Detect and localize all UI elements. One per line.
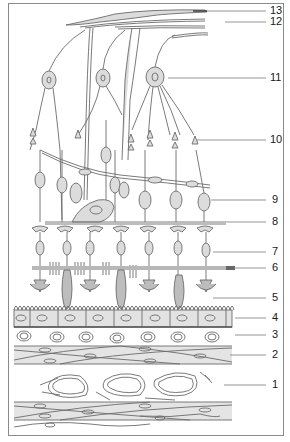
- layer-label-2: 2: [272, 349, 278, 360]
- choroid-stroma-lower: [14, 402, 232, 427]
- ganglion-cells: [42, 67, 164, 89]
- choroid-stroma: [14, 346, 232, 364]
- nerve-fiber-layer: [66, 10, 208, 38]
- layer-label-9: 9: [272, 194, 278, 205]
- external-limiting-membrane: [32, 266, 235, 270]
- inner-plexiform-synapses: [30, 128, 198, 150]
- rpe-microvilli: [14, 306, 234, 310]
- retina-illustration: [0, 0, 290, 442]
- layer-label-8: 8: [272, 216, 278, 227]
- ganglion-dendrites: [30, 85, 194, 220]
- layer-label-11: 11: [270, 72, 281, 83]
- label-leader-lines: [168, 11, 266, 385]
- layer-label-6: 6: [272, 262, 278, 273]
- layer-label-12: 12: [270, 16, 282, 27]
- layer-label-10: 10: [270, 134, 282, 145]
- horizontal-cell: [72, 200, 114, 222]
- outer-plexiform-layer: [45, 222, 226, 224]
- retinal-pigment-epithelium: [14, 310, 232, 327]
- choriocapillaris: [17, 331, 219, 343]
- layer-label-7: 7: [272, 246, 278, 257]
- layer-label-1: 1: [272, 379, 278, 390]
- layer-label-3: 3: [272, 329, 278, 340]
- choroid-vessels: [40, 372, 212, 400]
- layer-label-4: 4: [272, 312, 278, 323]
- photoreceptor-outer-segments: [30, 270, 216, 309]
- layer-label-5: 5: [272, 292, 278, 303]
